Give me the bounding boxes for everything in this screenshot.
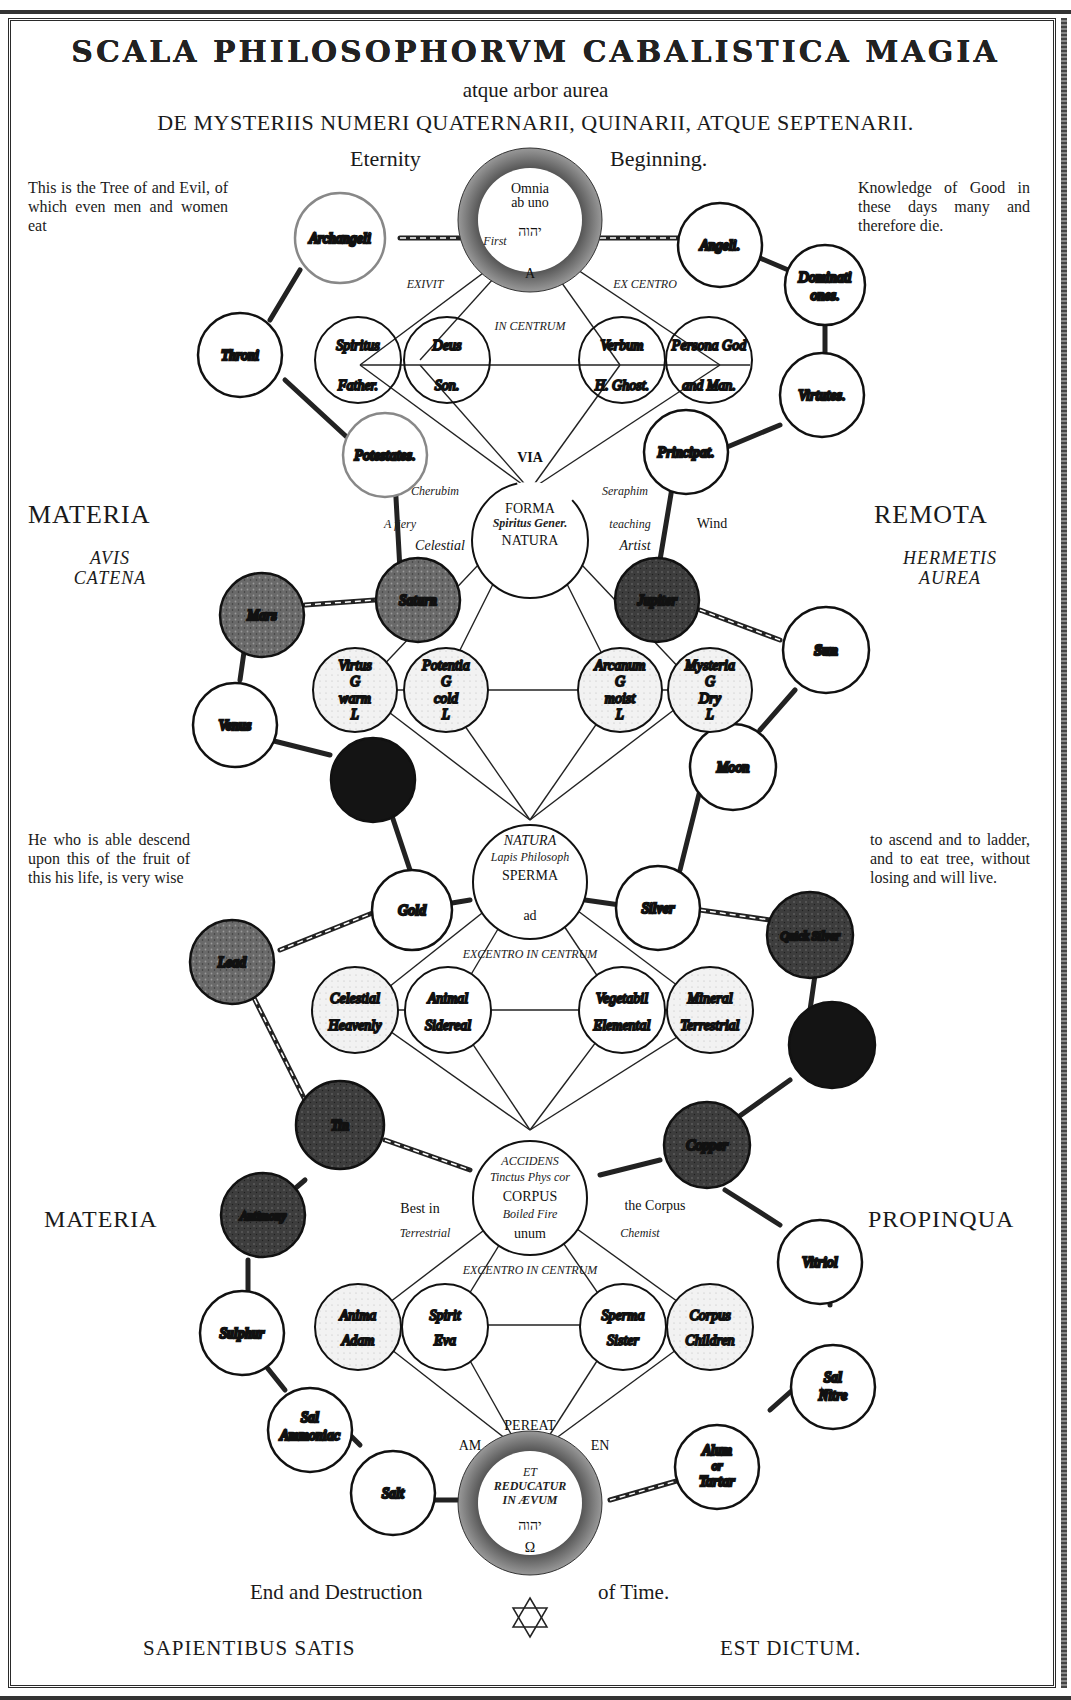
svg-text:REDUCATUR: REDUCATUR: [493, 1479, 567, 1493]
star-of-david-icon: [513, 1598, 547, 1637]
excentro-label-2: EXCENTRO IN CENTRUM: [462, 1263, 599, 1277]
svg-text:Sister: Sister: [607, 1333, 639, 1348]
svg-text:Virtutes.: Virtutes.: [799, 388, 846, 403]
a-fiery-label: A fiery: [383, 517, 417, 531]
svg-text:Tin: Tin: [331, 1118, 349, 1133]
svg-text:Saturn: Saturn: [399, 593, 436, 608]
row2-virtus: VirtusGwarmL: [313, 648, 397, 732]
svg-text:Silver: Silver: [642, 901, 675, 916]
svg-text:Sperma: Sperma: [602, 1308, 645, 1323]
svg-text:Animal: Animal: [427, 991, 469, 1006]
node-archangeli: Archangeli: [295, 193, 385, 283]
svg-text:Vegetabil: Vegetabil: [596, 991, 648, 1006]
top-sun-tetragrammaton: Omnia ab uno יהוה First A: [458, 148, 602, 292]
node-angeli: Angeli.: [678, 203, 762, 287]
svg-text:Ω: Ω: [525, 1540, 535, 1555]
node-silver: Silver: [616, 866, 700, 950]
row3-animal: AnimalSidereal: [405, 967, 491, 1053]
celestial-label: Celestial: [415, 538, 465, 553]
alpha-label: A: [525, 266, 536, 281]
svg-text:G: G: [350, 674, 360, 689]
en-label: EN: [591, 1438, 610, 1453]
row4-anima: AnimaAdam: [315, 1284, 401, 1370]
node-throni: Throni: [198, 313, 282, 397]
svg-text:Quick Silver: Quick Silver: [780, 929, 840, 943]
node-venus: Venus: [193, 683, 277, 767]
center-natura: NATURA Lapis Philosoph SPERMA ad: [473, 825, 587, 939]
am-label: AM: [459, 1438, 482, 1453]
svg-text:Antimony: Antimony: [239, 1209, 287, 1223]
svg-text:Angeli.: Angeli.: [699, 238, 740, 253]
svg-text:warm: warm: [339, 691, 371, 706]
svg-text:Tinctus Phys cor: Tinctus Phys cor: [490, 1170, 570, 1184]
svg-text:Moon: Moon: [716, 760, 750, 775]
svg-text:יהוה: יהוה: [518, 1518, 541, 1533]
ex-centro-label: EX CENTRO: [612, 277, 677, 291]
svg-text:Vitriol: Vitriol: [802, 1255, 838, 1270]
svg-text:L: L: [350, 707, 359, 722]
svg-text:cold: cold: [434, 691, 459, 706]
svg-text:Corpus: Corpus: [689, 1308, 731, 1323]
node-black-left: [331, 738, 415, 822]
svg-text:Alum: Alum: [701, 1443, 732, 1458]
svg-text:Spiritus: Spiritus: [336, 338, 380, 353]
svg-text:Jupiter: Jupiter: [637, 593, 677, 608]
svg-text:Heavenly: Heavenly: [328, 1018, 383, 1033]
node-gold: Gold: [372, 870, 452, 950]
svg-text:Copper: Copper: [686, 1138, 729, 1153]
svg-text:Sidereal: Sidereal: [425, 1018, 471, 1033]
svg-text:Mars: Mars: [246, 608, 277, 623]
node-quicksilver: Quick Silver: [767, 892, 853, 978]
svg-text:Sulphur: Sulphur: [220, 1326, 265, 1341]
svg-text:CORPUS: CORPUS: [503, 1189, 557, 1204]
svg-text:Tartar: Tartar: [699, 1474, 735, 1489]
svg-text:Potestates.: Potestates.: [353, 448, 415, 463]
svg-text:moist: moist: [605, 691, 636, 706]
svg-text:G: G: [441, 674, 451, 689]
node-salt: Salt: [351, 1451, 435, 1535]
seraphim-label: Seraphim: [602, 484, 648, 498]
row1-spiritus: SpiritusFather.: [315, 317, 401, 403]
wind-label: Wind: [697, 516, 728, 531]
svg-text:L: L: [441, 707, 450, 722]
exivit-label: EXIVIT: [406, 277, 445, 291]
artist-label: Artist: [618, 538, 651, 553]
svg-text:Venus: Venus: [219, 718, 252, 733]
node-virtutes: Virtutes.: [780, 353, 864, 437]
svg-text:ad: ad: [523, 908, 536, 923]
ab-uno-label: ab uno: [511, 195, 549, 210]
svg-text:Father.: Father.: [337, 378, 378, 393]
svg-text:Boiled Fire: Boiled Fire: [503, 1207, 558, 1221]
cherubim-label: Cherubim: [411, 484, 459, 498]
node-dominationes: Dominationes.: [785, 245, 865, 325]
row4-spirit: SpiritEva: [402, 1284, 488, 1370]
svg-text:Deus: Deus: [432, 338, 462, 353]
row3-vegetabil: VegetabilElemental: [579, 967, 665, 1053]
svg-text:Arcanum: Arcanum: [594, 658, 646, 673]
node-sulphur: Sulphur: [200, 1291, 284, 1375]
node-sal-ammoniac: SalAmmoniac: [268, 1388, 352, 1472]
omnia-label: Omnia: [511, 181, 550, 196]
row1-persona: Persona Godand Man.: [666, 317, 752, 403]
excentro-label-1: EXCENTRO IN CENTRUM: [462, 947, 599, 961]
node-lead: Lead: [190, 920, 274, 1004]
teaching-label: teaching: [609, 517, 650, 531]
svg-text:Lapis Philosoph: Lapis Philosoph: [490, 850, 569, 864]
svg-text:Dry: Dry: [698, 691, 722, 706]
in-centrum-label: IN CENTRUM: [493, 319, 566, 333]
svg-text:L: L: [705, 707, 714, 722]
svg-text:Anima: Anima: [339, 1308, 377, 1323]
terrestrial-label: Terrestrial: [400, 1226, 451, 1240]
svg-text:Spirit: Spirit: [429, 1308, 461, 1323]
svg-text:Adam: Adam: [341, 1333, 375, 1348]
svg-text:Mysteria: Mysteria: [684, 658, 735, 673]
svg-text:and Man.: and Man.: [682, 378, 736, 393]
row4-circles: AnimaAdam SpiritEva SpermaSister CorpusC…: [315, 1284, 753, 1370]
svg-text:or: or: [712, 1459, 723, 1473]
svg-text:ET: ET: [522, 1465, 538, 1479]
svg-text:NATURA: NATURA: [503, 833, 557, 848]
svg-text:Nitre: Nitre: [818, 1388, 847, 1403]
node-vitriol: Vitriol: [778, 1220, 862, 1304]
row1-verbum: VerbumH. Ghost.: [579, 317, 665, 403]
node-mars: Mars: [220, 573, 304, 657]
